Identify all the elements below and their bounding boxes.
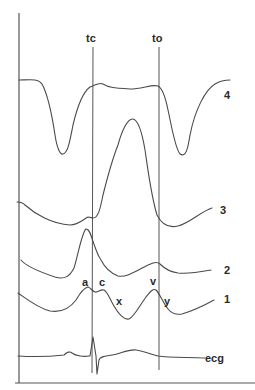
- wave-label-a: a: [82, 276, 89, 288]
- marker-label-to: to: [152, 32, 163, 44]
- trace-label-4: 4: [224, 89, 231, 101]
- trace-label-2: 2: [224, 264, 230, 276]
- waveform-figure: tc to 4 3 2 a c x v y 1 ecg: [0, 0, 255, 390]
- wave-label-c: c: [99, 276, 105, 288]
- trace-2: [21, 229, 211, 278]
- trace-label-1: 1: [224, 293, 230, 305]
- trace-label-3: 3: [220, 204, 226, 216]
- wave-label-y: y: [164, 295, 171, 307]
- marker-line-tc: [92, 47, 93, 373]
- trace-label-ecg: ecg: [205, 352, 224, 364]
- wave-label-x: x: [116, 295, 123, 307]
- trace-ecg: [18, 337, 205, 374]
- trace-4: [19, 80, 230, 155]
- trace-3: [17, 119, 212, 227]
- marker-label-tc: tc: [86, 32, 96, 44]
- wave-label-v: v: [150, 275, 157, 287]
